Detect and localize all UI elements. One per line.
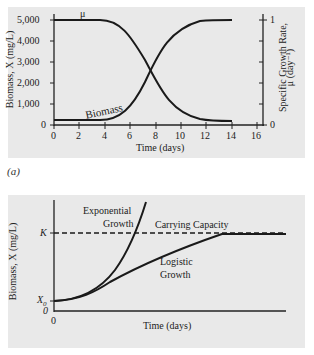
y-zero-label: 0 <box>43 305 48 316</box>
carrying-capacity-label: Carrying Capacity <box>155 219 229 230</box>
chart-b-plot <box>0 0 314 355</box>
x-zero-label: 0 <box>51 315 56 326</box>
logistic-curve <box>54 234 286 301</box>
k-tick-label: K <box>40 227 47 238</box>
exponential-label-1: Exponential <box>83 205 131 216</box>
logistic-label-1: Logistic <box>160 256 193 267</box>
exponential-curve <box>54 202 146 301</box>
y-axis-label-b: Biomass, X (mg/L) <box>7 223 18 301</box>
logistic-label-2: Growth <box>160 269 191 280</box>
x-axis-label-b: Time (days) <box>143 320 191 331</box>
exponential-label-2: Growth <box>103 218 134 229</box>
